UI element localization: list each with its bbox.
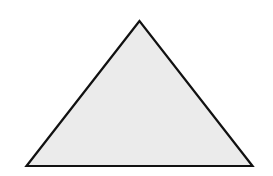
diagram-canvas — [0, 0, 273, 176]
triangle-shape — [27, 21, 253, 166]
